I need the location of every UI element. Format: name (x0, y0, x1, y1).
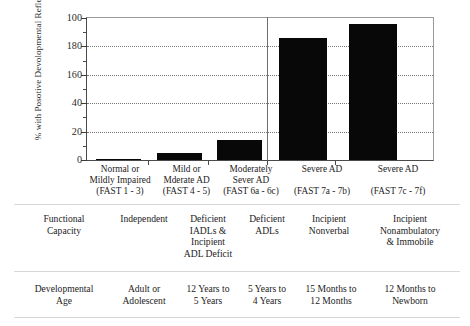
functional-capacity-cell-5: Incipient Nonambulatory & Immobile (362, 213, 458, 248)
y-tick-mark-minor-70 (83, 61, 87, 62)
category-label-2-line1: Mild or (155, 164, 218, 175)
category-label-5-line1: Severe AD (360, 164, 436, 175)
row-title-functional-capacity-line2: Capacity (18, 225, 110, 237)
y-tick-mark-100 (81, 18, 87, 19)
row-title-developmental-age: Developmental Age (18, 283, 110, 306)
developmental-age-cell-1: Adult or Adolescent (108, 283, 180, 306)
category-label-1-line1: Normal or (86, 164, 154, 175)
developmental-age-cell-5: 12 Months to Newborn (366, 283, 454, 306)
category-label-2-fast: (FAST 4 - 5) (155, 186, 218, 197)
y-tick-mark-80 (81, 46, 87, 47)
functional-capacity-cell-3: Deficient ADLs (238, 213, 296, 236)
category-label-3-line1: Moderately (218, 164, 284, 175)
table-rule-top (14, 204, 460, 205)
y-tick-mark-40 (81, 103, 87, 104)
chart-plot-area (86, 17, 434, 161)
y-tick-mark-minor-30 (83, 117, 87, 118)
table-rule-middle (14, 271, 460, 272)
y-tick-label-40: 40 (54, 97, 82, 108)
y-tick-label-20: 20 (54, 125, 82, 136)
category-label-3-line2: Sever AD (218, 175, 284, 186)
y-axis-title: % with Posotive Devolopmental Reflex (33, 0, 43, 147)
category-label-2-line2: Mderate AD (155, 175, 218, 186)
y-tick-label-100: 100 (54, 12, 82, 23)
y-tick-mark-minor-90 (83, 32, 87, 33)
bar-severe-ad-7a-7b (279, 38, 327, 160)
y-tick-label-80: 180 (54, 40, 82, 51)
functional-capacity-cell-2: Deficient IADLs & Incipient ADL Deficit (176, 213, 240, 259)
y-axis-tick-labels: 100 180 160 40 20 0 (52, 0, 82, 326)
bar-normal-mildly-impaired (96, 159, 141, 160)
y-tick-mark-minor-50 (83, 89, 87, 90)
category-label-1: Normal or Mildly Impaired (FAST 1 - 3) (86, 164, 154, 196)
y-tick-mark-minor-10 (83, 146, 87, 147)
y-tick-mark-20 (81, 132, 87, 133)
functional-capacity-cell-1: Independent (108, 213, 180, 225)
group-divider-line (267, 17, 268, 161)
bar-moderately-severe-ad (217, 140, 262, 160)
category-label-4-fast: (FAST 7a - 7b) (284, 186, 360, 197)
category-label-5: Severe AD (FAST 7c - 7f) (360, 164, 436, 196)
y-tick-mark-0 (81, 160, 87, 161)
bar-mild-moderate-ad (157, 153, 202, 160)
developmental-age-cell-2: 12 Years to 5 Years (176, 283, 240, 306)
y-tick-label-60: 160 (54, 68, 82, 79)
developmental-age-cell-4: 15 Months to 12 Months (296, 283, 366, 306)
category-label-5-fast: (FAST 7c - 7f) (360, 186, 436, 197)
row-title-developmental-age-line2: Age (18, 295, 110, 307)
category-label-4: Severe AD (FAST 7a - 7b) (284, 164, 360, 196)
category-label-1-fast: (FAST 1 - 3) (86, 186, 154, 197)
table-rule-bottom (14, 317, 460, 318)
category-label-1-line2: Mildly Impaired (86, 175, 154, 186)
row-title-functional-capacity-line1: Functional (18, 213, 110, 225)
y-tick-mark-60 (81, 75, 87, 76)
developmental-age-cell-3: 5 Years to 4 Years (238, 283, 296, 306)
category-label-2: Mild or Mderate AD (FAST 4 - 5) (155, 164, 218, 196)
chart-plot-inner (87, 18, 433, 160)
category-label-3: Moderately Sever AD (FAST 6a - 6c) (218, 164, 284, 196)
bar-severe-ad-7c-7f (349, 24, 397, 160)
row-title-functional-capacity: Functional Capacity (18, 213, 110, 236)
category-label-4-line1: Severe AD (284, 164, 360, 175)
functional-capacity-cell-4: Incipient Nonverbal (296, 213, 362, 236)
row-title-developmental-age-line1: Developmental (18, 283, 110, 295)
y-tick-label-0: 0 (54, 154, 82, 165)
category-label-3-fast: (FAST 6a - 6c) (218, 186, 284, 197)
